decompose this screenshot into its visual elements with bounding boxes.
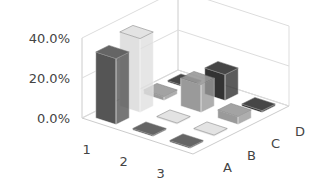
series-label: B [247, 148, 256, 163]
gridline [178, 0, 289, 26]
y-tick-label: 0.0% [37, 111, 70, 126]
series-label: D [295, 124, 305, 139]
bar-front [96, 52, 116, 125]
chart: 0.0%20.0%40.0%123ABCD [0, 0, 321, 196]
x-tick-label: 1 [83, 142, 91, 157]
bar-side [116, 52, 129, 125]
y-tick-label: 40.0% [29, 31, 70, 46]
bar-top [170, 134, 204, 147]
x-tick-label: 3 [157, 166, 165, 181]
bar-top [157, 110, 191, 123]
y-tick-label: 20.0% [29, 71, 70, 86]
bar-top [194, 122, 228, 135]
x-tick-label: 2 [120, 154, 128, 169]
series-label: A [223, 160, 232, 175]
bar-side [140, 32, 153, 113]
series-label: C [271, 136, 280, 151]
gridline [178, 30, 289, 66]
bar-top [133, 122, 167, 135]
